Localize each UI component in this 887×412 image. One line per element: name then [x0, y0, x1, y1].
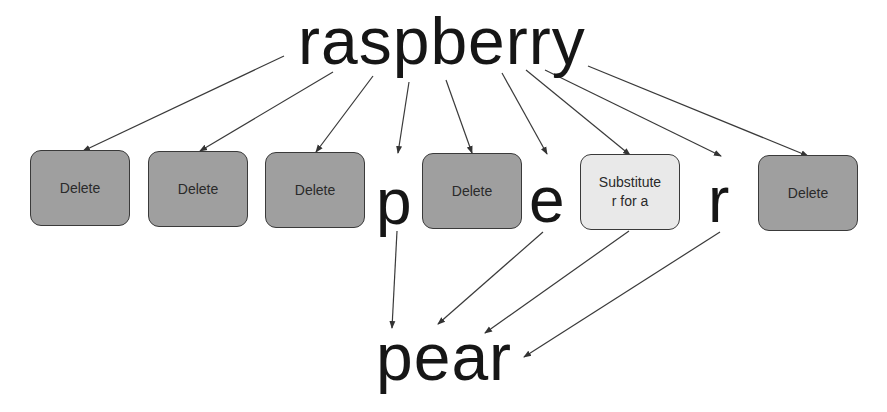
kept-letter-e: e: [529, 168, 565, 232]
arrow-r-to-delete-1: [83, 56, 284, 151]
substitute-label-line2: r for a: [599, 192, 661, 211]
substitute-box: Substitute r for a: [580, 154, 680, 230]
delete-box-4: Delete: [422, 153, 522, 229]
kept-letter-r: r: [708, 168, 729, 232]
arrow-p-to-p: [398, 82, 409, 153]
arrow-e-to-e: [502, 73, 547, 154]
arrow-p-to-pear: [392, 231, 397, 328]
arrow-b-to-delete-4: [446, 80, 472, 153]
substitute-label-line1: Substitute: [599, 173, 661, 192]
source-word: raspberry: [298, 8, 586, 74]
arrow-y-to-delete-5: [588, 66, 808, 156]
arrow-e-to-pear: [438, 232, 543, 324]
arrow-r-to-substitute: [526, 70, 630, 155]
arrow-substitute-to-pear: [485, 231, 629, 333]
delete-label: Delete: [788, 184, 828, 203]
arrow-s-to-delete-3: [316, 76, 373, 152]
arrow-r-to-r: [545, 70, 721, 156]
delete-label: Delete: [178, 180, 218, 199]
arrow-r-to-pear: [524, 232, 720, 357]
kept-letter-p: p: [376, 170, 412, 234]
arrow-a-to-delete-2: [200, 72, 333, 151]
delete-label: Delete: [452, 182, 492, 201]
delete-box-3: Delete: [265, 152, 365, 228]
target-word: pear: [376, 324, 512, 390]
delete-label: Delete: [295, 181, 335, 200]
delete-label: Delete: [60, 179, 100, 198]
delete-box-2: Delete: [148, 151, 248, 227]
delete-box-5: Delete: [758, 155, 858, 231]
delete-box-1: Delete: [30, 150, 130, 226]
